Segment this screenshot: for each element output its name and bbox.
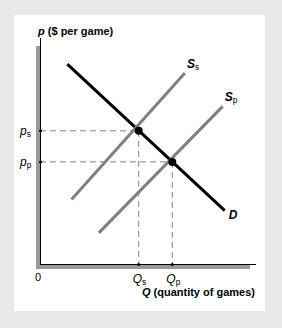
curve-d	[67, 64, 225, 211]
x-axis-label: Q (quantity of games)	[142, 286, 255, 298]
supply-demand-chart: p ($ per game)Q (quantity of games)0DSsS…	[0, 0, 282, 328]
curve-label-d: D	[229, 208, 238, 222]
price-label-p: pp	[19, 155, 32, 170]
curve-label-ss: Ss	[187, 57, 199, 72]
price-label-s: ps	[19, 124, 31, 139]
curve-label-sp: Sp	[225, 90, 238, 105]
quantity-label-s: Qs	[133, 272, 147, 287]
origin-label: 0	[35, 271, 41, 283]
equilibrium-point-s	[135, 127, 143, 135]
quantity-label-p: Qp	[166, 272, 180, 287]
price-tick-p	[39, 160, 42, 163]
price-tick-s	[39, 129, 42, 132]
curve-ss	[72, 73, 185, 200]
y-axis-label: p ($ per game)	[37, 25, 114, 37]
curve-sp	[99, 106, 223, 233]
quantity-tick-p	[171, 263, 174, 266]
equilibrium-point-p	[168, 158, 176, 166]
quantity-tick-s	[137, 263, 140, 266]
